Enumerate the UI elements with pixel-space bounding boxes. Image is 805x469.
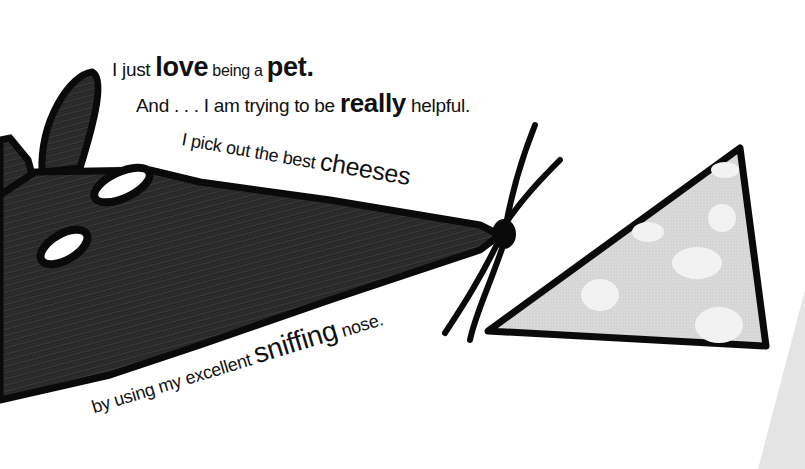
text-emphasis: pet. xyxy=(267,52,314,82)
text-span: And . . . I am trying to be xyxy=(136,95,340,116)
text-emphasis: love xyxy=(155,52,208,82)
cheese-wedge xyxy=(488,148,766,346)
ear-right xyxy=(42,72,98,172)
text-emphasis: really xyxy=(340,88,406,118)
nose xyxy=(492,219,516,249)
text-span: helpful. xyxy=(406,95,470,116)
text-span: I just xyxy=(112,59,155,80)
text-line-2: And . . . I am trying to be really helpf… xyxy=(136,88,470,119)
text-line-1: I just love being a pet. xyxy=(112,52,314,83)
text-span: being a xyxy=(208,62,267,79)
